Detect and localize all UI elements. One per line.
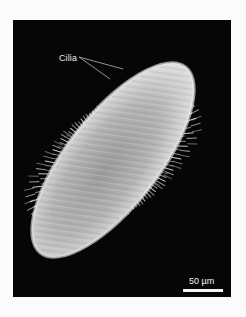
- scale-bar: [183, 289, 223, 292]
- cilia-label: Cilia: [59, 53, 77, 63]
- paramecium-image: [13, 20, 231, 297]
- label-pointer-lines: [79, 57, 123, 79]
- paramecium-body: [13, 39, 222, 282]
- micrograph-panel: Cilia 50 µm: [13, 20, 231, 297]
- scale-bar-label: 50 µm: [189, 276, 231, 286]
